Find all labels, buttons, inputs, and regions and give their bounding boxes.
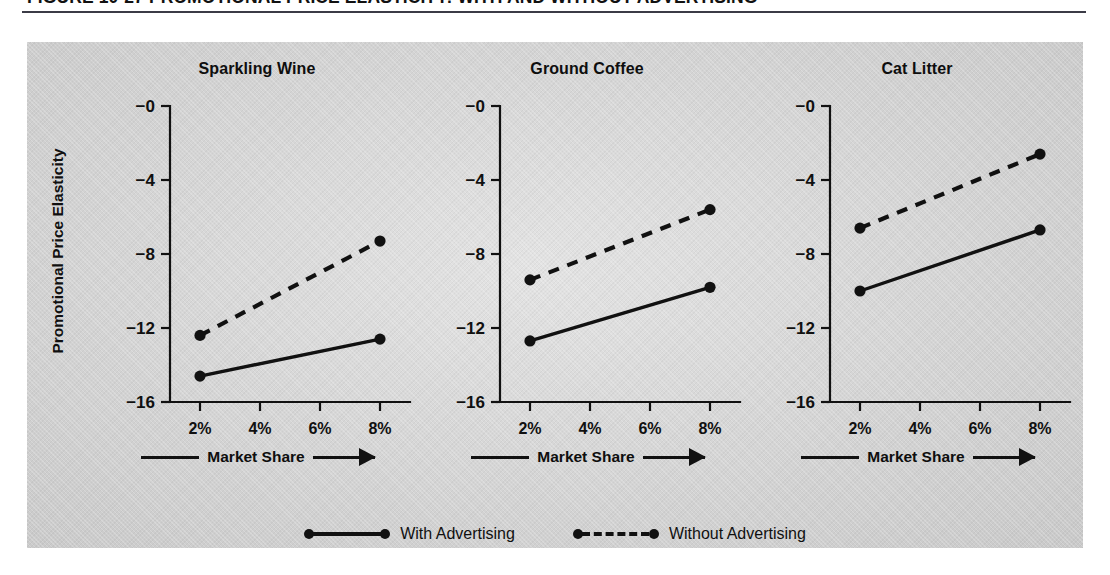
line-segment-icon [801,456,859,459]
chart-title: Cat Litter [752,60,1082,78]
data-point-marker [374,235,385,246]
series-line-dashed [200,241,380,335]
y-tick-label: −0 [466,97,485,116]
plot-area: −0−4−8−12−162%4%6%8% [422,90,752,460]
series-line-solid [200,339,380,376]
x-tick-label: 8% [368,420,391,437]
y-tick-label: −12 [126,319,155,338]
y-tick-label: −4 [796,171,816,190]
x-axis-caption: Market Share [780,446,1056,468]
x-tick-label: 2% [848,420,871,437]
data-point-marker [374,334,385,345]
data-point-marker [704,204,715,215]
x-tick-label: 2% [518,420,541,437]
legend-item-with-advertising: With Advertising [304,525,515,543]
arrow-right-icon [643,456,705,459]
chart-panel-ground-coffee: Ground Coffee −0−4−8−12−162%4%6%8% Marke… [422,42,752,548]
data-point-marker [194,371,205,382]
line-segment-icon [141,456,199,459]
chart-panel-sparkling-wine: Sparkling Wine −0−4−8−12−162%4%6%8% Mark… [92,42,422,548]
data-point-marker [1034,149,1045,160]
arrow-right-icon [973,456,1035,459]
legend: With Advertising Without Advertising [27,525,1083,543]
data-point-marker [524,274,535,285]
data-point-marker [194,330,205,341]
x-tick-label: 8% [1028,420,1051,437]
legend-label: Without Advertising [669,525,806,543]
legend-item-without-advertising: Without Advertising [573,525,806,543]
title-divider [22,11,1086,13]
chart-panel-cat-litter: Cat Litter −0−4−8−12−162%4%6%8% Market S… [752,42,1082,548]
data-point-marker [854,285,865,296]
x-tick-label: 8% [698,420,721,437]
y-tick-label: −0 [136,97,155,116]
figure-title: FIGURE 10-27 PROMOTIONAL PRICE ELASTICIT… [27,0,1087,8]
y-tick-label: −16 [126,393,155,412]
y-tick-label: −0 [796,97,815,116]
y-tick-label: −8 [136,245,155,264]
chart-title: Ground Coffee [422,60,752,78]
data-point-marker [524,335,535,346]
y-tick-label: −16 [786,393,815,412]
y-tick-label: −8 [466,245,485,264]
y-tick-label: −12 [786,319,815,338]
data-point-marker [1034,224,1045,235]
legend-swatch-solid-icon [304,527,390,541]
arrow-right-icon [313,456,375,459]
x-axis-label: Market Share [207,448,304,466]
chart-title: Sparkling Wine [92,60,422,78]
y-axis-label: Promotional Price Elasticity [47,92,69,410]
x-tick-label: 6% [638,420,661,437]
y-tick-label: −4 [136,171,156,190]
legend-swatch-dashed-icon [573,527,659,541]
series-line-solid [530,287,710,341]
x-axis-label: Market Share [867,448,964,466]
x-axis-caption: Market Share [120,446,396,468]
x-tick-label: 4% [248,420,271,437]
line-segment-icon [471,456,529,459]
plot-area: −0−4−8−12−162%4%6%8% [92,90,422,460]
x-tick-label: 2% [188,420,211,437]
y-tick-label: −8 [796,245,815,264]
series-line-solid [860,230,1040,291]
x-tick-label: 6% [308,420,331,437]
x-axis-caption: Market Share [450,446,726,468]
x-tick-label: 6% [968,420,991,437]
y-tick-label: −16 [456,393,485,412]
y-tick-label: −12 [456,319,485,338]
x-axis-label: Market Share [537,448,634,466]
series-line-dashed [530,210,710,280]
legend-label: With Advertising [400,525,515,543]
x-tick-label: 4% [578,420,601,437]
plot-area: −0−4−8−12−162%4%6%8% [752,90,1082,460]
data-point-marker [704,282,715,293]
data-point-marker [854,223,865,234]
y-tick-label: −4 [466,171,486,190]
series-line-dashed [860,154,1040,228]
x-tick-label: 4% [908,420,931,437]
